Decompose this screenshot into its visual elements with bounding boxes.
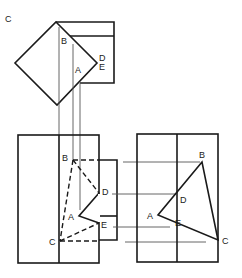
edge-b-d-hidden	[73, 160, 99, 193]
label-side-d: D	[180, 196, 187, 205]
label-front-c: C	[49, 238, 56, 247]
label-front-a: A	[68, 213, 74, 222]
side-view-triangle	[158, 162, 218, 240]
label-top-a: A	[75, 66, 81, 75]
edge-b-c-hidden	[60, 160, 73, 241]
label-side-c: C	[222, 237, 229, 246]
label-side-b: B	[199, 151, 205, 160]
projection-drawing	[0, 0, 242, 278]
label-side-e: E	[175, 219, 181, 228]
vertical-projectors	[59, 27, 80, 210]
label-top-e: E	[99, 63, 105, 72]
label-side-a: A	[147, 212, 153, 221]
label-front-d: D	[102, 188, 109, 197]
top-view-diamond	[15, 22, 97, 105]
front-view-notch	[79, 193, 99, 223]
edge-c-e-hidden	[60, 223, 99, 241]
label-top-b: B	[61, 37, 67, 46]
label-front-b: B	[62, 154, 68, 163]
label-front-e: E	[101, 221, 107, 230]
label-top-c: C	[5, 15, 12, 24]
side-view	[137, 134, 218, 262]
